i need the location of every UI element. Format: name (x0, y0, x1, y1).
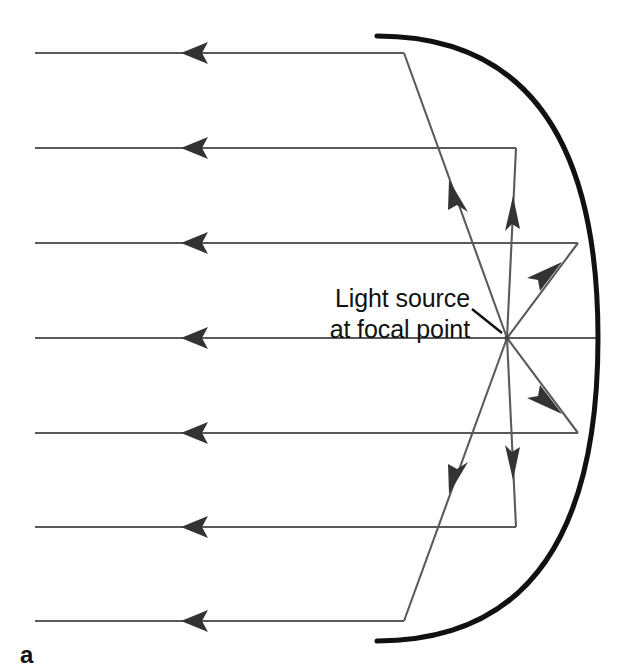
panel-letter: a (20, 641, 33, 669)
focal-ray-up-right (507, 243, 578, 338)
focal-ray-down-left-arrowhead (448, 462, 468, 494)
focal-ray-down-right (507, 338, 578, 433)
parabolic-mirror-figure: Light source at focal point a (0, 0, 637, 671)
focal-ray-up-left-arrowhead (448, 180, 468, 212)
focal-point-marker (504, 335, 509, 340)
light-source-label: Light source at focal point (210, 283, 470, 345)
